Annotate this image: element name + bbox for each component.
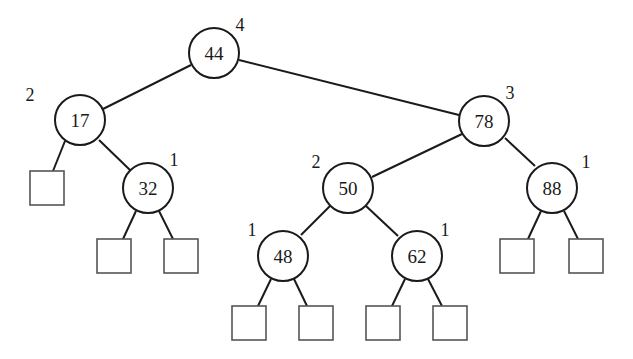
tree-node-17: 172: [26, 85, 106, 145]
leaf-node: [433, 306, 467, 340]
node-key: 88: [543, 178, 562, 199]
node-height-label: 1: [170, 150, 179, 170]
edge-n44-n78: [239, 60, 459, 115]
edge-n88-l88R: [564, 211, 578, 239]
node-key: 44: [205, 43, 225, 64]
leaf-node: [569, 239, 603, 273]
node-key: 62: [408, 246, 427, 267]
edge-n78-n88: [505, 138, 535, 166]
leaf-node: [500, 239, 534, 273]
edge-n62-l62L: [392, 279, 405, 306]
edge-n48-l48R: [294, 279, 307, 306]
leaf-node: [299, 306, 333, 340]
node-height-label: 3: [506, 83, 515, 103]
tree-node-48: 481: [248, 220, 309, 281]
avl-tree-diagram: 444172321783502881481621: [0, 0, 633, 359]
node-key: 50: [339, 178, 358, 199]
external-leaf-nodes: [30, 171, 603, 340]
node-key: 17: [71, 110, 90, 131]
edge-n44-n17: [103, 65, 191, 109]
tree-node-50: 502: [312, 152, 374, 213]
edge-n48-l48L: [258, 279, 271, 306]
tree-node-44: 444: [189, 15, 245, 78]
leaf-node: [232, 306, 266, 340]
leaf-node: [366, 306, 400, 340]
leaf-node: [30, 171, 64, 205]
node-height-label: 4: [236, 15, 245, 35]
node-height-label: 2: [26, 85, 35, 105]
tree-node-88: 881: [527, 152, 591, 213]
edge-n50-n48: [301, 206, 330, 235]
edge-n50-n62: [366, 206, 398, 236]
node-key: 78: [475, 111, 494, 132]
leaf-node: [97, 239, 131, 273]
edge-n62-l62R: [428, 279, 442, 306]
tree-node-78: 783: [459, 83, 515, 146]
tree-node-62: 621: [392, 220, 450, 281]
edge-n32-l32R: [159, 211, 173, 239]
edge-n32-l32L: [123, 211, 136, 239]
node-height-label: 1: [582, 152, 591, 172]
edge-n78-n50: [372, 134, 462, 177]
edge-n88-l88L: [528, 211, 541, 239]
node-height-label: 1: [441, 220, 450, 240]
tree-node-32: 321: [123, 150, 179, 213]
edge-n17-n32: [99, 140, 130, 170]
node-height-label: 2: [312, 152, 321, 172]
node-key: 32: [139, 178, 158, 199]
edge-n17-l17L: [53, 141, 65, 171]
leaf-node: [164, 239, 198, 273]
node-height-label: 1: [248, 220, 257, 240]
node-key: 48: [274, 246, 293, 267]
